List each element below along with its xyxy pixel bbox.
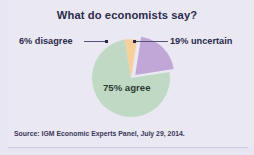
- leader-line-disagree: [84, 41, 107, 42]
- divider: [8, 147, 248, 148]
- pie-label-disagree: 6% disagree: [19, 36, 73, 46]
- pie-label-agree: 75% agree: [103, 82, 150, 93]
- leader-dot-disagree: [105, 40, 108, 43]
- leader-dot-uncertain: [133, 40, 136, 43]
- pie-chart: [86, 33, 176, 123]
- pie-chart-svg: [86, 33, 176, 123]
- pie-chart-figure: What do economists say? 6% disagree 19% …: [0, 0, 254, 155]
- pie-slice-uncertain-group: [135, 37, 174, 75]
- pie-slice-uncertain: [135, 37, 174, 75]
- page-title: What do economists say?: [0, 9, 254, 21]
- source-note: Source: IGM Economic Experts Panel, July…: [14, 129, 185, 138]
- leader-line-uncertain: [135, 41, 168, 42]
- pie-label-uncertain: 19% uncertain: [170, 36, 232, 46]
